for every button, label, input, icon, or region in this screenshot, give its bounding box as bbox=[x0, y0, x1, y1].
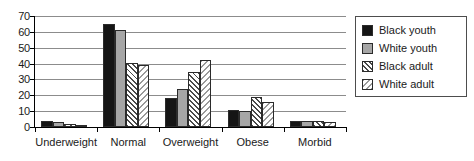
bar bbox=[200, 60, 212, 127]
x-tick-mark bbox=[346, 127, 347, 132]
legend-label: White adult bbox=[379, 78, 434, 90]
bar bbox=[126, 63, 138, 127]
chart-legend: Black youthWhite youthBlack adultWhite a… bbox=[355, 16, 467, 97]
x-axis-label-morbid: Morbid bbox=[284, 136, 346, 149]
x-tick-mark bbox=[222, 127, 223, 132]
legend-item-white-youth[interactable]: White youth bbox=[362, 42, 437, 54]
legend-item-black-adult[interactable]: Black adult bbox=[362, 60, 433, 72]
plot-area bbox=[35, 16, 346, 127]
y-tick-mark bbox=[30, 48, 35, 49]
bar bbox=[103, 24, 115, 127]
y-tick-label: 30 bbox=[0, 74, 30, 85]
x-axis-label-normal: Normal bbox=[97, 136, 159, 149]
legend-label: Black youth bbox=[379, 24, 436, 36]
x-axis-label-underweight: Underweight bbox=[35, 136, 97, 149]
y-tick-label: 0 bbox=[0, 122, 30, 133]
bar-chart: 010203040506070 Black youthWhite youthBl… bbox=[0, 0, 474, 161]
x-axis-label-obese: Obese bbox=[222, 136, 284, 149]
y-tick-mark bbox=[30, 32, 35, 33]
bar-group bbox=[103, 16, 149, 127]
bar bbox=[165, 98, 177, 127]
y-tick-mark bbox=[30, 79, 35, 80]
bar bbox=[188, 72, 200, 128]
bar bbox=[228, 110, 240, 127]
bar-group bbox=[228, 16, 274, 127]
y-tick-mark bbox=[30, 111, 35, 112]
bar bbox=[251, 97, 263, 127]
legend-item-black-youth[interactable]: Black youth bbox=[362, 24, 436, 36]
legend-swatch-icon bbox=[362, 43, 373, 54]
legend-label: White youth bbox=[379, 42, 437, 54]
x-tick-mark bbox=[35, 127, 36, 132]
y-tick-label: 70 bbox=[0, 11, 30, 22]
x-axis-line bbox=[34, 127, 346, 128]
y-tick-label: 40 bbox=[0, 59, 30, 70]
bar-group bbox=[41, 16, 87, 127]
y-axis-labels: 010203040506070 bbox=[0, 10, 30, 134]
y-tick-mark bbox=[30, 64, 35, 65]
bar bbox=[115, 30, 127, 127]
legend-swatch-icon bbox=[362, 79, 373, 90]
y-tick-label: 20 bbox=[0, 90, 30, 101]
legend-swatch-icon bbox=[362, 25, 373, 36]
y-tick-mark bbox=[30, 95, 35, 96]
y-tick-mark bbox=[30, 16, 35, 17]
bar bbox=[239, 111, 251, 127]
x-tick-mark bbox=[284, 127, 285, 132]
bar bbox=[262, 102, 274, 127]
y-tick-label: 50 bbox=[0, 43, 30, 54]
legend-item-white-adult[interactable]: White adult bbox=[362, 78, 434, 90]
x-axis-label-overweight: Overweight bbox=[159, 136, 221, 149]
x-tick-mark bbox=[97, 127, 98, 132]
bar bbox=[138, 65, 150, 127]
bar-group bbox=[290, 16, 336, 127]
bar-group bbox=[165, 16, 211, 127]
legend-swatch-icon bbox=[362, 61, 373, 72]
bar bbox=[177, 89, 189, 127]
y-tick-label: 10 bbox=[0, 106, 30, 117]
x-tick-mark bbox=[159, 127, 160, 132]
y-tick-label: 60 bbox=[0, 27, 30, 38]
legend-label: Black adult bbox=[379, 60, 433, 72]
